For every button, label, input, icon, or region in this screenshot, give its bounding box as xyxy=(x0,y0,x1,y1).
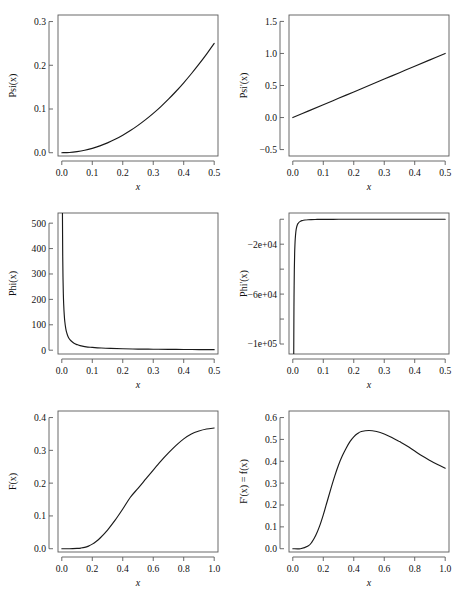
y-tick-label: 0.3 xyxy=(34,16,46,27)
x-tick-label: 0.2 xyxy=(317,563,329,574)
x-axis-title: x xyxy=(135,181,141,192)
plot-frame xyxy=(289,411,449,552)
x-tick-label: 0.2 xyxy=(348,167,360,178)
y-tick-label: 300 xyxy=(32,268,47,279)
y-tick-label: 200 xyxy=(32,294,47,305)
x-tick-label: 0.0 xyxy=(56,167,68,178)
plot-frame xyxy=(58,213,218,354)
x-tick-label: 0.5 xyxy=(208,167,220,178)
y-tick-label: −6e+04 xyxy=(248,289,278,300)
y-tick-label: 0.4 xyxy=(34,412,46,423)
x-tick-label: 0.6 xyxy=(378,563,390,574)
x-axis-title: x xyxy=(366,379,372,390)
plot-frame xyxy=(58,15,218,156)
y-tick-label: 0.0 xyxy=(265,543,277,554)
x-tick-label: 1.0 xyxy=(208,563,220,574)
x-tick-label: 1.0 xyxy=(439,563,451,574)
y-tick-label: 0.3 xyxy=(265,478,277,489)
x-tick-label: 0.1 xyxy=(317,365,329,376)
y-tick-label: 0.2 xyxy=(265,499,277,510)
x-tick-label: 0.2 xyxy=(117,365,129,376)
y-tick-label: 1.5 xyxy=(265,16,277,27)
y-tick-label: 0 xyxy=(41,345,46,356)
y-tick-label: −1e+05 xyxy=(248,338,278,349)
data-curve xyxy=(62,209,214,349)
x-tick-label: 0.2 xyxy=(117,167,129,178)
y-axis-title: Phi'(x) xyxy=(238,270,250,297)
y-tick-label: 0.0 xyxy=(34,543,46,554)
x-tick-label: 0.3 xyxy=(147,365,159,376)
chart-psi-prime: 0.00.10.20.30.40.5−0.50.00.51.01.5xPsi'(… xyxy=(231,0,461,198)
data-curve xyxy=(62,428,214,549)
y-tick-label: 0.3 xyxy=(34,445,46,456)
plot-frame xyxy=(289,213,449,354)
figure-panel-grid: 0.00.10.20.30.40.50.00.10.20.3xPsi(x) 0.… xyxy=(0,0,461,594)
chart-F-prime: 0.00.20.40.60.81.00.00.10.20.30.40.50.6x… xyxy=(231,396,461,594)
y-tick-label: −2e+04 xyxy=(248,239,278,250)
data-curve xyxy=(62,43,214,152)
y-axis-title: F'(x) = f(x) xyxy=(238,459,250,504)
x-tick-label: 0.4 xyxy=(348,563,360,574)
x-tick-label: 0.5 xyxy=(439,365,451,376)
x-tick-label: 0.2 xyxy=(86,563,98,574)
x-tick-label: 0.6 xyxy=(147,563,159,574)
x-axis-title: x xyxy=(135,577,141,588)
x-tick-label: 0.0 xyxy=(56,563,68,574)
data-curve xyxy=(293,53,445,117)
y-axis-title: F(x) xyxy=(7,473,19,490)
x-tick-label: 0.5 xyxy=(208,365,220,376)
x-tick-label: 0.1 xyxy=(86,365,98,376)
chart-F: 0.00.20.40.60.81.00.00.10.20.30.4xF(x) xyxy=(0,396,230,594)
y-tick-label: 400 xyxy=(32,243,47,254)
plot-panel-F: 0.00.20.40.60.81.00.00.10.20.30.4xF(x) xyxy=(0,396,230,594)
x-tick-label: 0.4 xyxy=(178,365,190,376)
x-tick-label: 0.2 xyxy=(348,365,360,376)
x-tick-label: 0.4 xyxy=(409,365,421,376)
x-tick-label: 0.8 xyxy=(409,563,421,574)
data-curve xyxy=(293,430,445,548)
y-axis-title: Psi'(x) xyxy=(238,73,250,99)
y-tick-label: 0.5 xyxy=(265,434,277,445)
plot-panel-psi-prime: 0.00.10.20.30.40.5−0.50.00.51.01.5xPsi'(… xyxy=(231,0,461,198)
y-tick-label: 0.0 xyxy=(34,147,46,158)
y-tick-label: 0.0 xyxy=(265,112,277,123)
x-tick-label: 0.3 xyxy=(378,167,390,178)
y-tick-label: 0.1 xyxy=(34,103,46,114)
x-tick-label: 0.1 xyxy=(86,167,98,178)
plot-panel-phi: 0.00.10.20.30.40.50100200300400500xPhi(x… xyxy=(0,198,230,396)
x-tick-label: 0.0 xyxy=(56,365,68,376)
x-axis-title: x xyxy=(366,577,372,588)
y-tick-label: 100 xyxy=(32,319,47,330)
y-tick-label: 0.2 xyxy=(34,60,46,71)
y-axis-title: Psi(x) xyxy=(7,74,19,98)
x-tick-label: 0.0 xyxy=(287,365,299,376)
x-tick-label: 0.0 xyxy=(287,563,299,574)
x-tick-label: 0.3 xyxy=(378,365,390,376)
chart-phi-prime: 0.00.10.20.30.40.5−2e+04−6e+04−1e+05xPhi… xyxy=(231,198,461,396)
y-tick-label: 0.6 xyxy=(265,412,277,423)
x-tick-label: 0.5 xyxy=(439,167,451,178)
x-tick-label: 0.1 xyxy=(317,167,329,178)
plot-panel-psi: 0.00.10.20.30.40.50.00.10.20.3xPsi(x) xyxy=(0,0,230,198)
x-tick-label: 0.0 xyxy=(287,167,299,178)
chart-phi: 0.00.10.20.30.40.50100200300400500xPhi(x… xyxy=(0,198,230,396)
data-curve xyxy=(294,219,445,357)
x-tick-label: 0.3 xyxy=(147,167,159,178)
plot-panel-F-prime: 0.00.20.40.60.81.00.00.10.20.30.40.50.6x… xyxy=(231,396,461,594)
y-axis-title: Phi(x) xyxy=(7,271,19,296)
x-tick-label: 0.4 xyxy=(178,167,190,178)
x-tick-label: 0.8 xyxy=(178,563,190,574)
x-axis-title: x xyxy=(366,181,372,192)
y-tick-label: 0.5 xyxy=(265,80,277,91)
y-tick-label: 0.4 xyxy=(265,456,277,467)
y-tick-label: 0.2 xyxy=(34,478,46,489)
y-tick-label: 500 xyxy=(32,218,47,229)
y-tick-label: 0.1 xyxy=(34,510,46,521)
plot-panel-phi-prime: 0.00.10.20.30.40.5−2e+04−6e+04−1e+05xPhi… xyxy=(231,198,461,396)
y-tick-label: 1.0 xyxy=(265,48,277,59)
chart-psi: 0.00.10.20.30.40.50.00.10.20.3xPsi(x) xyxy=(0,0,230,198)
x-tick-label: 0.4 xyxy=(409,167,421,178)
x-tick-label: 0.4 xyxy=(117,563,129,574)
x-axis-title: x xyxy=(135,379,141,390)
y-tick-label: −0.5 xyxy=(260,144,278,155)
